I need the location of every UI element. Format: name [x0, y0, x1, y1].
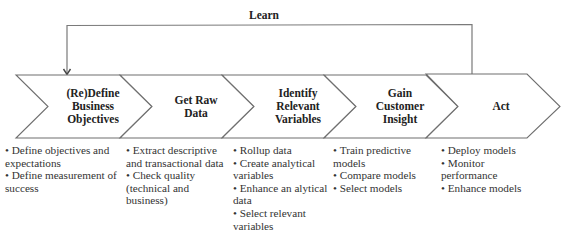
step-title-identify-variables: Identify Relevant Variables [252, 75, 344, 138]
bullets-identify-variables: Rollup data Create analytical variables … [233, 144, 331, 232]
list-item: Check quality (technical and business) [126, 169, 206, 207]
title-line: Gain [376, 87, 425, 100]
list-item: Extract descriptive and transactional da… [126, 144, 230, 169]
step-title-get-raw-data: Get Raw Data [150, 75, 242, 138]
list-item: Monitor performance [441, 157, 511, 182]
title-line: (Re)Define [66, 87, 119, 100]
bullets-get-raw-data: Extract descriptive and transactional da… [126, 144, 230, 207]
title-line: Data [174, 107, 217, 120]
list-item: Select relevant variables [233, 207, 331, 232]
bullets-gain-insight: Train predictive models Compare models S… [333, 144, 433, 194]
bullets-define-objectives: Define objectives and expectations Defin… [5, 144, 123, 194]
bullets-act: Deploy models Monitor performance Enhanc… [441, 144, 551, 194]
title-line: Business [66, 100, 119, 113]
title-line: Variables [275, 113, 321, 126]
list-item: Compare models [333, 169, 433, 182]
step-title-define-objectives: (Re)Define Business Objectives [47, 75, 139, 138]
title-line: Insight [376, 113, 425, 126]
step-title-act: Act [455, 75, 547, 138]
list-item: Enhance an alytical data [233, 182, 331, 207]
list-item: Deploy models [441, 144, 551, 157]
title-line: Objectives [66, 113, 119, 126]
list-item: Train predictive models [333, 144, 421, 169]
learn-label: Learn [244, 9, 284, 21]
list-item: Define measurement of success [5, 169, 123, 194]
list-item: Select models [333, 182, 433, 195]
title-line: Relevant [275, 100, 321, 113]
title-line: Act [492, 100, 509, 113]
list-item: Rollup data [233, 144, 331, 157]
title-line: Get Raw [174, 94, 217, 107]
title-line: Customer [376, 100, 425, 113]
title-line: Identify [275, 87, 321, 100]
list-item: Define objectives and expectations [5, 144, 123, 169]
step-title-gain-insight: Gain Customer Insight [354, 75, 446, 138]
list-item: Create analytical variables [233, 157, 331, 182]
list-item: Enhance models [441, 182, 551, 195]
learn-loop-arrow [64, 25, 473, 75]
